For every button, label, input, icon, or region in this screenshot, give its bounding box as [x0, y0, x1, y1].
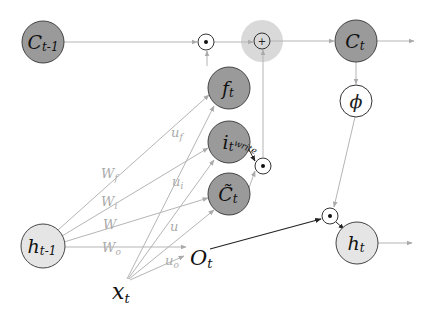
- label-w: W: [103, 217, 118, 232]
- label-u: u: [170, 219, 178, 234]
- node-c-tilde: C̃t: [208, 173, 250, 215]
- node-f: ft: [208, 67, 250, 109]
- edge-hprev-to-f: [58, 95, 209, 230]
- node-h-prev: ht-1: [21, 224, 65, 268]
- node-c: Ct: [335, 20, 377, 62]
- edge-o-to-output-mult: [210, 219, 321, 249]
- output-mult-operator: [322, 208, 338, 224]
- node-o: Ot: [190, 246, 213, 271]
- lstm-diagram: Ct-1 ft it C̃t Ct ϕ ht-1 ht +: [0, 0, 434, 320]
- label-wo: Wo: [102, 240, 121, 257]
- label-uo: uo: [165, 253, 179, 270]
- edge-phi-to-output-mult: [334, 117, 355, 207]
- edge-hprev-to-ctilde: [64, 198, 208, 242]
- label-wf: Wf: [101, 166, 119, 183]
- forget-mult-operator: [198, 34, 214, 50]
- node-phi: ϕ: [340, 85, 372, 117]
- node-h: ht: [336, 222, 378, 264]
- label-uf: uf: [171, 125, 184, 142]
- svg-text:+: +: [258, 36, 266, 47]
- svg-text:ϕ: ϕ: [350, 90, 363, 112]
- label-ui: ui: [172, 174, 183, 191]
- label-wi: Wi: [101, 194, 117, 211]
- node-c-prev: Ct-1: [22, 21, 64, 63]
- node-x: xt: [112, 279, 130, 306]
- write-mult-operator: [255, 158, 271, 174]
- edge-ctilde-to-write-mult: [249, 171, 255, 188]
